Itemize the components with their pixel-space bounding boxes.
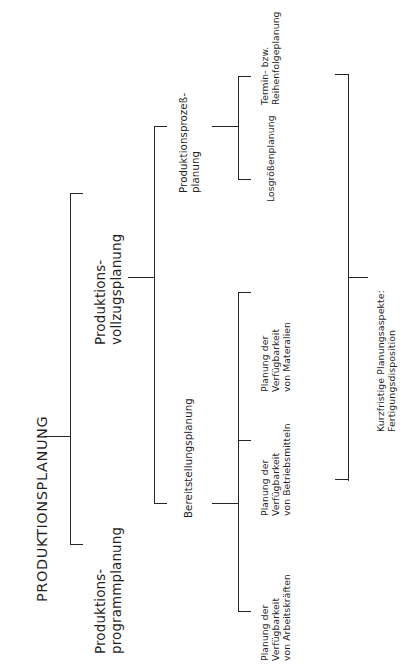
grouping-bracket-top-line: [335, 74, 349, 75]
prozessplanung-connector-line: [212, 126, 239, 127]
leaf-arbeitskraeften-label: Planung der Verfügbarkeit von Arbeitskrä…: [260, 574, 293, 661]
bereitstellungsplanung-spine-line: [238, 292, 239, 612]
node-produktionsprogrammplanung-label: Produktions- programmplanung: [93, 527, 125, 654]
bereitstellungsplanung-connector-line: [212, 503, 239, 504]
leaf-terminplanung-label: Termin- bzw. Reihenfolgeplanung: [260, 12, 282, 105]
level3-branch-upper-line: [154, 126, 167, 127]
vollzugsplanung-connector-line: [128, 277, 155, 278]
prozessplanung-spine-line: [238, 76, 239, 180]
level1-spine-line: [70, 193, 71, 545]
level2-spine-line: [154, 126, 155, 504]
grouping-bracket-stem-line: [348, 277, 368, 278]
leaf-betriebsmitteln-branch-line: [238, 440, 251, 441]
level2-branch-upper-line: [70, 193, 83, 194]
production-planning-tree-diagram: PRODUKTIONSPLANUNG Produktions- programm…: [0, 0, 408, 664]
node-produktionsvollzugsplanung-label: Produktions- vollzugsplanung: [93, 234, 125, 345]
node-produktionsprozessplanung-label: Produktionsprozeß- planung: [178, 93, 202, 193]
node-bereitstellungsplanung-label: Bereitstellungsplanung: [183, 398, 195, 518]
root-node-label: PRODUKTIONSPLANUNG: [34, 416, 51, 602]
leaf-betriebsmitteln-label: Planung der Verfügbarkeit von Betriebsmi…: [260, 423, 293, 516]
grouping-bracket-bottom-line: [335, 479, 349, 480]
leaf-losgroessen-branch-line: [238, 179, 251, 180]
leaf-termin-branch-line: [238, 76, 251, 77]
leaf-arbeitskraeften-branch-line: [238, 611, 251, 612]
level3-branch-lower-line: [154, 503, 167, 504]
leaf-materialien-label: Planung der Verfügbarkeit von Materalien: [260, 322, 293, 392]
leaf-losgroessenplanung-label: Losgrößenplanung: [266, 115, 277, 202]
level2-branch-lower-line: [70, 544, 83, 545]
leaf-materialien-branch-line: [238, 292, 251, 293]
grouping-bracket-label: Kurzfristige Planungsaspekte: Fertigungs…: [375, 290, 397, 432]
